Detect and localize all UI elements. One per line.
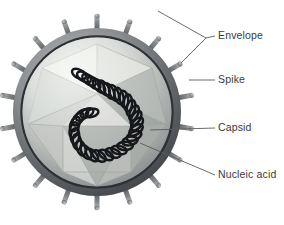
envelope-leader (206, 36, 215, 38)
label-spike: Spike (218, 74, 245, 85)
envelope-bracket (158, 11, 206, 63)
label-envelope: Envelope (218, 30, 263, 41)
label-nucleic-acid: Nucleic acid (218, 169, 276, 180)
label-capsid: Capsid (218, 122, 252, 133)
interior-highlight (23, 38, 172, 187)
